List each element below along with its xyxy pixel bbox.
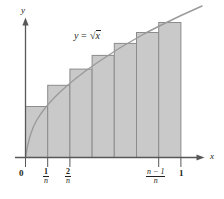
fraction-numerator: n − 1	[146, 168, 165, 176]
fraction-2-over-n: 2 n	[65, 168, 71, 186]
x-tick-label-1: 1	[179, 169, 184, 178]
curve-label-radicand: x	[96, 30, 101, 41]
radical-sign: √x	[89, 30, 101, 41]
y-axis-label: y	[21, 6, 25, 15]
x-tick-label-2-over-n: 2 n	[65, 168, 71, 186]
x-tick-label-n-minus-1-over-n: n − 1 n	[146, 168, 165, 186]
fraction-numerator: 1	[43, 168, 49, 176]
fraction-n-minus-1-over-n: n − 1 n	[146, 168, 165, 186]
fraction-denominator: n	[65, 176, 71, 185]
fraction-denominator: n	[43, 176, 49, 185]
x-tick-label-0: 0	[19, 169, 24, 178]
riemann-sum-figure: y x y = √x 0 1 n 2 n n − 1 n 1	[0, 0, 224, 199]
riemann-bar	[137, 33, 159, 158]
plot-canvas	[0, 0, 224, 199]
x-axis-ticks	[26, 158, 181, 168]
riemann-bar	[48, 85, 70, 157]
curve-equation-label: y = √x	[74, 30, 101, 41]
riemann-bar	[159, 23, 181, 158]
x-axis-label: x	[210, 152, 214, 161]
riemann-rectangles	[26, 23, 181, 158]
fraction-numerator: 2	[65, 168, 71, 176]
riemann-bar	[92, 55, 114, 157]
riemann-bar	[70, 69, 92, 157]
fraction-denominator: n	[146, 176, 165, 185]
riemann-bar	[26, 107, 48, 158]
curve-label-equals: =	[78, 30, 89, 41]
x-tick-label-1-over-n: 1 n	[43, 168, 49, 186]
riemann-bar	[114, 43, 136, 157]
fraction-1-over-n: 1 n	[43, 168, 49, 186]
